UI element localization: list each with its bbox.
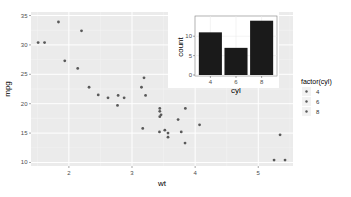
scatter-x-axis: 2345 [67,166,260,176]
data-point [107,96,110,99]
y-tick-label: 20 [21,101,28,107]
y-tick-label: 25 [21,71,28,77]
data-point [160,113,163,116]
y-tick-label: 35 [21,13,28,19]
data-point [180,131,183,134]
legend-point-icon [305,100,307,102]
data-point [37,41,40,44]
bar-4 [199,32,222,75]
data-point [177,118,180,121]
legend-label: 4 [316,89,320,95]
data-point [117,94,120,97]
legend-items: 468 [302,87,320,116]
data-point [88,86,91,89]
inset-bar-chart: 0510 468 cyl count [168,12,279,95]
data-point [167,132,170,135]
data-point [167,136,170,139]
data-point [198,123,201,126]
data-point [143,76,146,79]
data-point [284,159,287,162]
bar-6 [224,48,247,75]
data-point [76,67,79,70]
data-point [184,142,187,145]
data-point [43,41,46,44]
data-point [63,59,66,62]
data-point [144,94,147,97]
x-tick-label: 3 [130,170,134,176]
legend-point-icon [305,110,307,112]
data-point [163,129,166,132]
y-tick-label: 10 [21,159,28,165]
data-point [158,131,161,134]
data-point [97,93,100,96]
data-point [273,159,276,162]
chart-canvas: 101520253035 2345 wt mpg 0510 468 cyl co… [0,0,351,197]
data-point [123,96,126,99]
data-point [158,107,161,110]
y-tick-label: 30 [21,42,28,48]
data-point [80,29,83,32]
x-tick-label: 4 [193,170,197,176]
scatter-y-axis-title: mpg [3,81,12,97]
y-tick-label: 15 [21,130,28,136]
data-point [57,21,60,24]
bar-y-axis-title: count [176,36,185,56]
x-tick-label: 5 [257,170,261,176]
bar-x-axis-title: cyl [231,86,241,95]
data-point [141,127,144,130]
scatter-x-axis-title: wt [157,179,167,188]
legend-label: 6 [316,99,320,105]
legend-title: factor(cyl) [301,78,332,86]
legend-label: 8 [316,109,320,115]
bar-y-tick-label: 10 [185,33,192,39]
legend-point-icon [305,90,307,92]
data-point [279,133,282,136]
bar-8 [250,21,273,75]
scatter-y-axis: 101520253035 [21,13,31,166]
data-point [158,110,161,113]
data-point [140,86,143,89]
data-point [184,107,187,110]
legend: factor(cyl) 468 [301,78,332,116]
x-tick-label: 2 [67,170,71,176]
data-point [116,104,119,107]
